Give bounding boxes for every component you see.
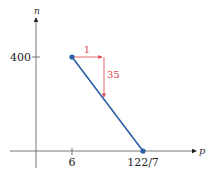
y-axis-label: n	[34, 6, 40, 16]
x-axis-label: p	[199, 145, 206, 156]
y-tick-label-400: 400	[10, 51, 31, 64]
chart: n p 400 6 122/7 1 35	[0, 0, 211, 174]
data-point-start	[69, 54, 74, 59]
run-label: 1	[84, 44, 90, 55]
x-tick-label-122-7: 122/7	[127, 156, 159, 169]
rise-label: 35	[107, 69, 120, 80]
data-point-end	[140, 148, 145, 153]
x-tick-label-6: 6	[69, 156, 76, 169]
